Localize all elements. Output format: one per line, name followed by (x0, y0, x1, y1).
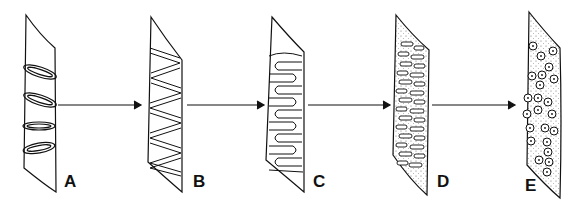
label-e: E (525, 176, 536, 196)
cell-c (266, 17, 304, 192)
label-b: B (193, 172, 205, 192)
cell-b (148, 17, 182, 192)
label-c: C (313, 172, 325, 192)
cell-e (523, 12, 561, 198)
cell-d (393, 15, 429, 195)
meandering-folds (269, 53, 303, 172)
diagram-canvas (0, 0, 585, 209)
arrow-c-to-d (308, 101, 390, 109)
label-d: D (437, 172, 449, 192)
oval-rings (22, 62, 57, 156)
label-a: A (64, 172, 76, 192)
zigzag-bands (150, 48, 181, 176)
arrow-b-to-c (187, 101, 264, 109)
arrow-a-to-b (58, 101, 141, 109)
cell-a (22, 15, 57, 192)
arrow-d-to-e (432, 101, 515, 109)
